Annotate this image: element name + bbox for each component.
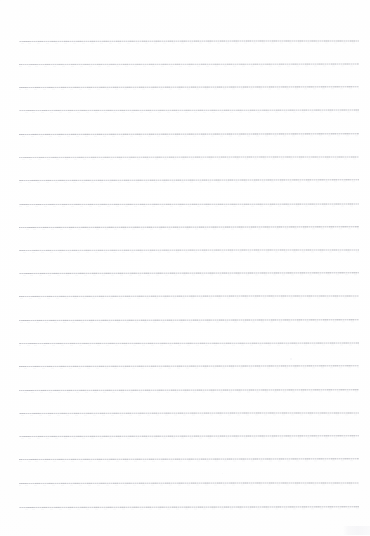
ruled-line: [19, 226, 359, 228]
rule-patches: [19, 203, 359, 205]
rule-dots: [19, 86, 359, 88]
rule-base: [19, 272, 359, 274]
rule-patches: [19, 40, 359, 42]
scanned-page: [0, 0, 370, 536]
rule-ghost: [19, 135, 359, 137]
rule-patches: [19, 156, 359, 158]
ruled-line: [19, 319, 359, 321]
rule-base: [19, 319, 359, 321]
rule-ghost: [19, 274, 359, 276]
rule-dots: [19, 226, 359, 228]
ruled-line: [19, 272, 359, 274]
rule-dots: [19, 179, 359, 181]
rule-dots: [19, 272, 359, 274]
rule-patches: [19, 482, 359, 484]
rule-ghost: [19, 181, 359, 183]
paper-surface: [0, 0, 370, 536]
rule-dots: [19, 319, 359, 321]
rule-base: [19, 365, 359, 367]
ruled-line: [19, 179, 359, 181]
rule-base: [19, 506, 359, 508]
rule-ghost: [19, 42, 359, 44]
rule-base: [19, 133, 359, 135]
rule-base: [19, 86, 359, 88]
rule-ghost: [19, 344, 359, 346]
rule-base: [19, 226, 359, 228]
corner-watermark: [343, 526, 370, 535]
rule-dots: [19, 64, 359, 65]
rule-patches: [19, 295, 359, 297]
ruled-line: [19, 249, 359, 251]
rule-dots: [19, 109, 359, 111]
ruled-line: [19, 86, 359, 88]
ruled-line: [19, 342, 359, 344]
rule-dots: [19, 203, 359, 205]
rule-ghost: [19, 297, 359, 299]
ruled-line: [19, 506, 359, 508]
scan-speck: [222, 473, 223, 474]
rule-ghost: [19, 508, 359, 510]
rule-dots: [19, 412, 359, 414]
rule-dots: [19, 482, 359, 484]
rule-ghost: [19, 228, 359, 230]
rule-ghost: [19, 391, 359, 393]
rule-base: [19, 412, 359, 414]
rule-patches: [19, 458, 359, 460]
rule-dots: [19, 389, 359, 391]
rule-base: [19, 179, 359, 181]
rule-base: [19, 156, 359, 158]
rule-ghost: [19, 367, 359, 369]
rule-dots: [19, 133, 359, 135]
rule-ghost: [19, 158, 359, 160]
rule-base: [19, 295, 359, 297]
rule-patches: [19, 272, 359, 274]
ruled-line: [19, 133, 359, 135]
rule-ghost: [19, 484, 359, 486]
rule-ghost: [19, 251, 359, 253]
rule-base: [19, 482, 359, 484]
ruled-line: [19, 365, 359, 367]
ruled-line: [19, 389, 359, 391]
rule-base: [19, 435, 359, 437]
ruled-line: [19, 412, 359, 414]
rule-base: [19, 64, 359, 65]
rule-patches: [19, 133, 359, 135]
rule-ghost: [19, 111, 359, 113]
rule-base: [19, 458, 359, 460]
scan-speck: [290, 358, 292, 360]
ruled-line: [19, 482, 359, 484]
ruled-line: [19, 109, 359, 111]
rule-patches: [19, 109, 359, 111]
ruled-line: [19, 64, 359, 65]
rule-ghost: [19, 321, 359, 323]
scan-speck: [152, 437, 153, 438]
rule-patches: [19, 319, 359, 321]
ruled-line: [19, 458, 359, 460]
rule-patches: [19, 435, 359, 437]
rule-base: [19, 249, 359, 251]
ruled-line: [19, 156, 359, 158]
rule-ghost: [19, 437, 359, 439]
rule-ghost: [19, 66, 359, 67]
rule-base: [19, 342, 359, 344]
rule-patches: [19, 389, 359, 391]
ruled-line: [19, 435, 359, 437]
rule-dots: [19, 342, 359, 344]
rule-patches: [19, 64, 359, 65]
rule-dots: [19, 435, 359, 437]
rule-base: [19, 40, 359, 42]
rule-ghost: [19, 88, 359, 90]
rule-dots: [19, 506, 359, 508]
rule-patches: [19, 226, 359, 228]
rule-patches: [19, 342, 359, 344]
rule-dots: [19, 40, 359, 42]
ruled-line: [19, 203, 359, 205]
rule-dots: [19, 365, 359, 367]
rule-ghost: [19, 205, 359, 207]
rule-dots: [19, 249, 359, 251]
rule-base: [19, 389, 359, 391]
rule-ghost: [19, 460, 359, 462]
ruled-line: [19, 295, 359, 297]
rule-base: [19, 203, 359, 205]
rule-base: [19, 109, 359, 111]
